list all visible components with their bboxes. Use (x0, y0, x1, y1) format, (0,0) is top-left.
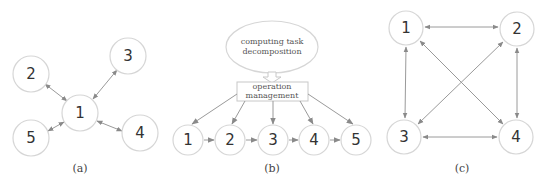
node-c-1: 1 (389, 11, 423, 45)
edge-1-4 (97, 121, 122, 131)
node-label: 4 (309, 131, 319, 149)
edge-mgmt-2 (232, 101, 245, 124)
node-c-3: 3 (387, 120, 421, 154)
diagram-canvas: 1 2 3 4 5 (a) computing task decompositi… (0, 0, 546, 189)
node-c-4: 4 (499, 120, 533, 154)
node-a-3: 3 (110, 38, 146, 74)
node-label: 3 (399, 128, 409, 146)
panel-b-pipeline-topology: computing task decomposition operation m… (173, 21, 371, 175)
decomposition-label-line1: computing task (241, 37, 304, 46)
node-a-2: 2 (13, 56, 49, 92)
decomposition-label-line2: decomposition (242, 47, 301, 56)
node-a-1: 1 (62, 95, 98, 131)
node-label: 2 (512, 20, 522, 38)
node-label: 2 (225, 131, 235, 149)
edge-mgmt-5 (308, 94, 353, 124)
edge-mgmt-4 (300, 101, 313, 124)
node-label: 5 (351, 131, 361, 149)
node-b-1: 1 (173, 125, 203, 155)
node-label: 1 (75, 104, 85, 122)
node-label: 4 (135, 124, 145, 142)
edge-1-2 (45, 84, 67, 101)
edge-1-3 (405, 47, 406, 118)
management-label-line2: management (246, 91, 300, 100)
edge-mgmt-1 (192, 94, 237, 124)
edge-1-3 (93, 70, 117, 99)
node-c-2: 2 (500, 12, 534, 46)
caption-c: (c) (455, 162, 470, 175)
node-b-5: 5 (341, 125, 371, 155)
caption-a: (a) (72, 162, 87, 175)
node-label: 2 (26, 65, 36, 83)
node-label: 1 (401, 19, 411, 37)
node-a-5: 5 (13, 120, 49, 156)
node-b-3: 3 (258, 125, 288, 155)
caption-b: (b) (264, 162, 280, 175)
node-b-2: 2 (215, 125, 245, 155)
node-label: 3 (268, 131, 278, 149)
panel-c-fully-connected-topology: 1 2 3 4 (c) (387, 11, 534, 175)
management-label-line1: operation (252, 82, 291, 91)
edge-1-5 (48, 122, 64, 131)
node-a-4: 4 (122, 115, 158, 151)
node-label: 4 (511, 128, 521, 146)
node-label: 3 (123, 47, 133, 65)
node-label: 1 (183, 131, 193, 149)
node-label: 5 (26, 129, 36, 147)
node-b-4: 4 (299, 125, 329, 155)
panel-a-star-topology: 1 2 3 4 5 (a) (13, 38, 158, 175)
